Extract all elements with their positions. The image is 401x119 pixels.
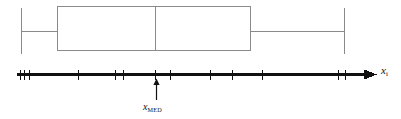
axis-label: xi: [381, 65, 388, 78]
median-label-subscript: MED: [147, 106, 161, 113]
axis-label-subscript: i: [386, 70, 388, 77]
boxplot-canvas: [0, 0, 401, 119]
median-label: xMED: [143, 102, 162, 113]
median-callout-arrow: [153, 79, 159, 101]
boxplot-group: [22, 6, 345, 54]
median-arrow-head: [153, 79, 159, 86]
box-rect: [57, 6, 250, 50]
axis-arrowhead: [364, 70, 377, 80]
axis-group: [17, 70, 377, 80]
boxplot-figure: xi xMED: [0, 0, 401, 119]
